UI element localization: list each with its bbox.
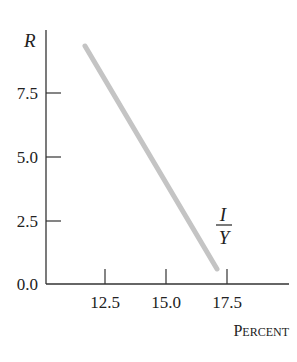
- x-tick-label: 17.5: [212, 293, 242, 312]
- x-tick-label: 15.0: [151, 293, 181, 312]
- chart-canvas: 7.5 5.0 2.5 0.0 12.5 15.0 17.5 R PERCENT…: [0, 0, 297, 362]
- y-tick-label: 2.5: [17, 212, 38, 231]
- series-label-numerator: I: [219, 204, 228, 225]
- y-tick-label: 0.0: [17, 275, 38, 294]
- series-line-i-over-y: [85, 46, 217, 269]
- y-tick-label: 5.0: [17, 148, 38, 167]
- y-axis-title: R: [23, 30, 36, 51]
- y-tick-label: 7.5: [17, 84, 38, 103]
- x-tick-label: 12.5: [90, 293, 120, 312]
- x-axis-title: PERCENT: [233, 322, 289, 339]
- series-label-denominator: Y: [219, 227, 232, 248]
